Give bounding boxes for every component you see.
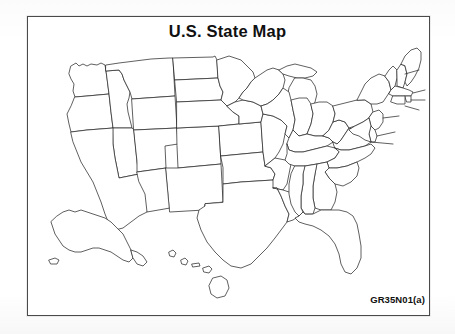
state-colorado xyxy=(177,126,221,168)
worksheet-page: U.S. State Map xyxy=(0,0,455,334)
leader-line-delaware xyxy=(377,132,395,136)
hawaii-island-maui xyxy=(203,266,212,273)
state-south-dakota xyxy=(175,78,223,102)
leader-line-maryland xyxy=(371,142,393,144)
state-connecticut xyxy=(391,96,405,104)
state-kansas xyxy=(219,122,263,156)
leader-line-new-jersey xyxy=(383,116,399,118)
state-michigan-upper-peninsula xyxy=(279,64,317,78)
state-washington xyxy=(69,63,109,97)
leader-line-connecticut xyxy=(405,106,419,110)
hawaii-island-hawaii xyxy=(209,276,229,298)
state-north-dakota xyxy=(173,56,218,80)
state-florida xyxy=(295,210,361,274)
us-state-map xyxy=(27,16,430,316)
state-utah xyxy=(134,128,178,172)
state-oregon xyxy=(67,94,113,132)
state-rhode-island xyxy=(405,96,411,102)
alaska-southeast-panhandle xyxy=(131,250,147,266)
state-new-york xyxy=(357,74,391,104)
alaska-aleutian-islands xyxy=(49,258,59,264)
hawaii-island-kauai xyxy=(169,250,176,257)
hawaii-island-oahu xyxy=(181,258,188,265)
hawaii-island-molokai xyxy=(192,263,200,267)
leader-line-massachusetts xyxy=(413,90,425,93)
us-outline-map-svg xyxy=(27,16,430,316)
state-wyoming xyxy=(132,96,177,130)
worksheet-code-label: GR35N01(a) xyxy=(330,294,425,305)
